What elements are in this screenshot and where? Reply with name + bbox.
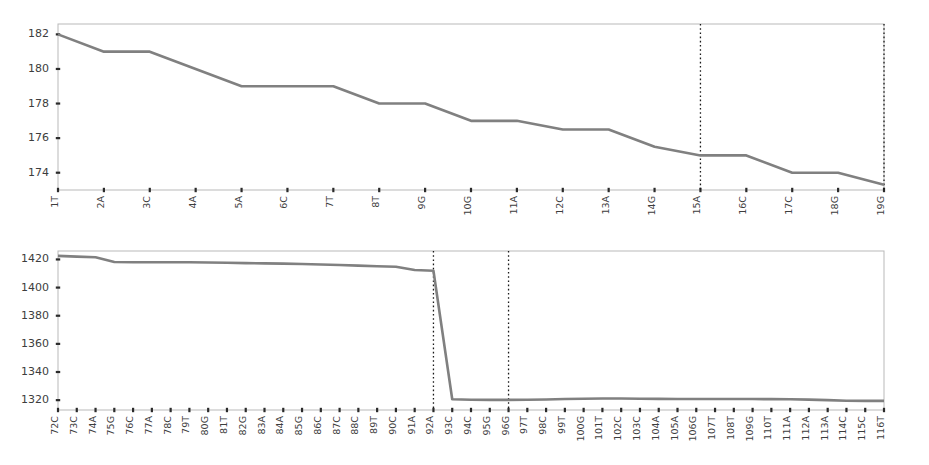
x-axis-tick-label: 88C (349, 416, 360, 435)
x-tick-mark (188, 408, 190, 412)
x-tick-mark (583, 408, 585, 412)
y-axis-tick-label: 1380 (21, 309, 49, 322)
x-tick-mark (357, 408, 359, 412)
y-tick-mark (56, 286, 60, 288)
y-axis-tick-label: 176 (28, 131, 49, 144)
plot-frame (58, 251, 884, 410)
x-axis-tick-label: 108T (725, 416, 736, 440)
x-axis-tick-label: 93C (443, 416, 454, 435)
x-axis-tick-label: 87C (331, 416, 342, 435)
x-axis-tick-label: 73C (68, 416, 79, 435)
x-axis-tick-label: 91A (406, 416, 417, 435)
x-axis-tick-label: 1T (49, 196, 60, 208)
x-tick-mark (113, 408, 115, 412)
top-line-chart: 1741761781801821T2A3C4A5A6C7T8T9G10G11A1… (0, 0, 929, 236)
x-tick-mark (57, 188, 59, 192)
x-axis-tick-label: 82G (237, 416, 248, 435)
x-tick-mark (639, 408, 641, 412)
x-axis-tick-label: 96G (500, 416, 511, 435)
y-tick-mark (56, 137, 60, 139)
x-axis-tick-label: 11A (508, 196, 519, 215)
x-tick-mark (320, 408, 322, 412)
y-tick-mark (56, 102, 60, 104)
y-tick-mark (56, 68, 60, 70)
x-tick-mark (695, 408, 697, 412)
y-axis-tick-label: 180 (28, 62, 49, 75)
x-axis-tick-label: 12C (554, 196, 565, 215)
x-axis-tick-label: 104A (650, 416, 661, 441)
x-tick-mark (751, 408, 753, 412)
x-tick-mark (414, 408, 416, 412)
x-tick-mark (620, 408, 622, 412)
x-axis-tick-label: 111A (781, 416, 792, 441)
x-axis-tick-label: 103C (631, 416, 642, 441)
x-axis-tick-label: 98C (537, 416, 548, 435)
x-axis-tick-label: 76C (124, 416, 135, 435)
x-tick-mark (745, 188, 747, 192)
y-axis-tick-label: 178 (28, 97, 49, 110)
x-tick-mark (526, 408, 528, 412)
x-tick-mark (770, 408, 772, 412)
x-axis-tick-label: 75G (105, 416, 116, 435)
x-tick-mark (837, 188, 839, 192)
x-axis-tick-label: 115C (856, 416, 867, 441)
x-tick-mark (516, 188, 518, 192)
y-axis-tick-label: 182 (28, 27, 49, 40)
x-tick-mark (57, 408, 59, 412)
x-axis-tick-label: 105A (669, 416, 680, 441)
x-tick-mark (470, 188, 472, 192)
x-tick-mark (733, 408, 735, 412)
x-tick-mark (676, 408, 678, 412)
x-axis-tick-label: 14G (646, 196, 657, 215)
x-axis-tick-label: 101T (593, 416, 604, 440)
x-axis-tick-label: 5A (233, 196, 244, 209)
x-axis-tick-label: 10G (462, 196, 473, 215)
y-axis-tick-label: 1320 (21, 393, 49, 406)
series-line (58, 34, 884, 184)
x-axis-tick-label: 74A (87, 416, 98, 435)
x-tick-mark (883, 408, 885, 412)
x-tick-mark (376, 408, 378, 412)
x-tick-mark (395, 408, 397, 412)
x-axis-tick-label: 4A (187, 196, 198, 209)
chart-panel-top: 1741761781801821T2A3C4A5A6C7T8T9G10G11A1… (0, 0, 929, 236)
figure-container: 1741761781801821T2A3C4A5A6C7T8T9G10G11A1… (0, 0, 929, 465)
x-tick-mark (94, 408, 96, 412)
x-axis-tick-label: 95G (481, 416, 492, 435)
x-tick-mark (170, 408, 172, 412)
x-tick-mark (226, 408, 228, 412)
x-axis-tick-label: 19G (875, 196, 886, 215)
x-tick-mark (601, 408, 603, 412)
x-axis-tick-label: 97T (518, 416, 529, 434)
x-tick-mark (240, 188, 242, 192)
x-tick-mark (76, 408, 78, 412)
x-tick-mark (282, 408, 284, 412)
x-tick-mark (470, 408, 472, 412)
x-axis-tick-label: 90C (387, 416, 398, 435)
x-tick-mark (245, 408, 247, 412)
x-axis-tick-label: 86C (312, 416, 323, 435)
x-tick-mark (564, 408, 566, 412)
x-tick-mark (301, 408, 303, 412)
x-axis-tick-label: 110T (762, 416, 773, 440)
y-tick-mark (56, 399, 60, 401)
y-axis-tick-label: 174 (28, 166, 49, 179)
x-tick-mark (507, 408, 509, 412)
plot-frame (58, 24, 884, 190)
x-tick-mark (207, 408, 209, 412)
y-axis-tick-label: 1400 (21, 281, 49, 294)
x-axis-tick-label: 18G (829, 196, 840, 215)
y-tick-mark (56, 258, 60, 260)
x-tick-mark (489, 408, 491, 412)
x-tick-mark (195, 188, 197, 192)
x-axis-tick-label: 116T (875, 416, 886, 440)
x-axis-tick-label: 16C (737, 196, 748, 215)
x-axis-tick-label: 2A (95, 196, 106, 209)
series-line (58, 256, 884, 401)
x-axis-tick-label: 113A (819, 416, 830, 441)
chart-panel-bottom: 13201340136013801400142072C73C74A75G76C7… (0, 236, 929, 465)
x-axis-tick-label: 109G (744, 416, 755, 442)
x-axis-tick-label: 84A (274, 416, 285, 435)
x-tick-mark (338, 408, 340, 412)
x-tick-mark (845, 408, 847, 412)
